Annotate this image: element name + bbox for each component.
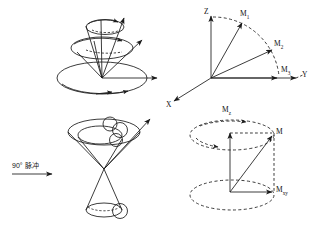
- mz-precession-ellipse: [190, 120, 274, 150]
- dcone-bottom-ellipse: [86, 203, 122, 217]
- dcone-line-left2: [78, 137, 104, 169]
- figure-drawing: [0, 0, 316, 227]
- panel-double-cone-spins: [68, 117, 150, 219]
- cone-line-b: [101, 20, 102, 78]
- panel-precession-cones: [57, 18, 157, 94]
- vector-m-resultant: [230, 136, 272, 192]
- nmr-magnetization-figure: 90° 脉冲 Z Y X M1 M2 M3 Mz M Mxy: [0, 0, 316, 227]
- cone-hidden-arc-mid: [86, 50, 122, 53]
- mz-ellipse-arrow-top: [200, 121, 246, 126]
- rotation-arc: [213, 17, 279, 76]
- vector-cone-top: [102, 18, 124, 78]
- cone-ellipse-small-arrow: [88, 20, 118, 24]
- label-m1: M1: [240, 10, 249, 20]
- vector-m2: [211, 50, 272, 78]
- dcone-bottom-hidden: [88, 207, 120, 211]
- dcone-line-left: [68, 132, 104, 169]
- axis-label-z: Z: [204, 8, 209, 16]
- cone-hidden-arc-top: [92, 30, 118, 33]
- label-m3: M3: [281, 66, 290, 76]
- panel-magnetization-components: [190, 120, 274, 210]
- mxy-precession-ellipse: [190, 180, 274, 210]
- label-m2: M2: [274, 40, 283, 50]
- label-mxy: Mxy: [276, 186, 288, 196]
- pulse-label: 90° 脉冲: [12, 160, 39, 170]
- vector-m1: [211, 23, 242, 78]
- cone-ellipse-large-arrow: [62, 84, 128, 94]
- label-mz: Mz: [222, 106, 231, 116]
- mz-ellipse-arrow-left: [196, 138, 218, 147]
- panel-coordinate-axes: [174, 16, 303, 101]
- axis-x: [174, 78, 211, 101]
- axis-label-y: Y: [302, 71, 307, 79]
- label-m: M: [276, 128, 283, 138]
- axis-label-x: X: [166, 101, 171, 109]
- cone-line-c: [94, 41, 102, 78]
